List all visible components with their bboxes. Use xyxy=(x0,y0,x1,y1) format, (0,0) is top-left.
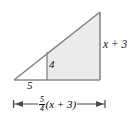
fraction-denominator: 4 xyxy=(39,104,45,113)
label-base-segment: 5 xyxy=(27,80,33,91)
label-right-side: x + 3 xyxy=(103,39,127,51)
dimension-parenthetical: (x + 3) xyxy=(46,99,77,110)
label-inner-height: 4 xyxy=(49,59,55,70)
dimension-label: 5 4 (x + 3) xyxy=(38,96,77,113)
fraction-numerator: 5 xyxy=(39,96,45,104)
fraction-five-fourths: 5 4 xyxy=(39,96,45,113)
dimension-arrowhead-left xyxy=(15,101,23,107)
geometry-figure: x + 3 4 5 5 4 (x + 3) xyxy=(0,0,131,120)
dimension-arrowhead-right xyxy=(96,101,104,107)
